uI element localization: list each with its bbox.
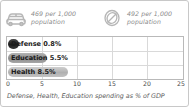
- stat-vehicles-text: 469 per 1,000 population: [31, 10, 76, 25]
- stats-row: 469 per 1,000 population 492 per 1,000 p…: [1, 1, 188, 34]
- table-row: Health 8.5%: [7, 65, 183, 79]
- bar-label-defense: Defense 0.8%: [11, 39, 61, 49]
- x-tick-20: 20: [143, 80, 151, 87]
- telephone-ring-icon: [101, 8, 123, 28]
- table-row: Education 5.5%: [7, 51, 183, 65]
- x-axis: 0 5 10 15 20 25: [6, 80, 184, 89]
- x-tick-10: 10: [73, 80, 81, 87]
- infographic-card: 469 per 1,000 population 492 per 1,000 p…: [0, 0, 189, 107]
- x-tick-0: 0: [6, 80, 10, 87]
- bar-chart-plot: Defense 0.8% Education 5.5% Health 8.5%: [6, 36, 184, 80]
- bar-label-health: Health 8.5%: [11, 67, 56, 77]
- table-row: Defense 0.8%: [7, 37, 183, 51]
- stat-telephones: 492 per 1,000 population: [96, 8, 188, 28]
- bar-label-education: Education 5.5%: [11, 53, 68, 63]
- stat-vehicles: 469 per 1,000 population: [1, 8, 96, 28]
- x-tick-15: 15: [108, 80, 116, 87]
- x-tick-25: 25: [177, 80, 185, 87]
- stat-telephones-text: 492 per 1,000 population: [127, 10, 172, 25]
- car-icon: [5, 8, 27, 28]
- chart-caption: Defense, Health, Education spending as %…: [7, 92, 185, 100]
- x-tick-5: 5: [40, 80, 44, 87]
